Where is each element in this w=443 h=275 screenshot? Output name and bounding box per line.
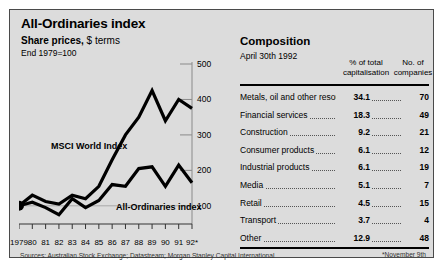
y-axis-tick-label: 500 [197,60,211,69]
row-label: Financial services [240,110,310,120]
chart-subtitle: Share prices, $ terms [21,35,120,46]
row-label: Industrial products [240,162,311,172]
x-axis-tick-label: 86 [108,238,117,247]
composition-table-body: Metals, oil and other resources34.170Fin… [240,89,429,247]
table-row: Industrial products6.119 [240,159,429,177]
table-row: Retail4.515 [240,195,429,213]
x-axis-tick-label: 92* [186,238,198,247]
row-label: Transport [240,215,278,225]
row-label: Consumer products [240,145,316,155]
row-company-count: 70 [401,92,429,102]
footer-rule [240,247,429,249]
chart-basis-note: End 1979=100 [21,48,77,58]
chart-subtitle-rest: $ terms [84,35,120,46]
x-axis-tick-label: 87 [121,238,130,247]
row-company-count: 21 [401,127,429,137]
y-axis-tick-label: 200 [197,165,211,175]
x-axis-tick-label: 85 [94,238,103,247]
table-row: Financial services18.349 [240,107,429,125]
chart-column: All-Ordinaries index Share prices, $ ter… [10,10,232,259]
x-axis-labels: 197980818283848586878889909192* [19,238,224,249]
row-percent-capitalisation: 34.1 [336,92,372,102]
table-row: Metals, oil and other resources34.170 [240,89,429,107]
row-company-count: 4 [401,215,429,225]
x-axis-tick-label: 80 [28,238,37,247]
composition-column: Composition April 30th 1992 % of total c… [234,10,435,259]
row-label: Other [240,233,263,243]
row-percent-capitalisation: 3.7 [336,215,372,225]
table-row: Media5.17 [240,177,429,195]
x-axis-tick-label: 82 [54,238,63,247]
chart-subtitle-bold: Share prices, [21,35,84,46]
row-company-count: 15 [401,198,429,208]
x-axis-tick-label: 91 [174,238,183,247]
row-company-count: 49 [401,110,429,120]
table-row: Other12.948 [240,230,429,248]
table-row: Construction9.221 [240,124,429,142]
row-label: Retail [240,198,264,208]
table-row: Consumer products6.112 [240,142,429,160]
row-company-count: 7 [401,180,429,190]
x-axis-tick-label: 83 [68,238,77,247]
figure-panel: All-Ordinaries index Share prices, $ ter… [9,9,434,258]
row-percent-capitalisation: 6.1 [336,145,372,155]
x-axis-tick-label: 1979 [10,238,28,247]
y-axis-tick-label: 400 [197,94,211,104]
footnote: *November 9th [382,251,426,258]
row-percent-capitalisation: 5.1 [336,180,372,190]
series-label-all-ordinaries: All-Ordinaries index [116,202,202,212]
x-axis-tick-label: 81 [41,238,50,247]
column-header-companies: No. of companies [392,58,434,78]
y-axis-tick-label: 300 [197,130,211,140]
table-header: % of total capitalisation No. of compani… [240,58,429,82]
x-axis-tick-label: 90 [161,238,170,247]
series-label-msci: MSCI World Index [51,141,127,151]
row-label: Media [240,180,265,190]
row-label: Construction [240,127,290,137]
row-percent-capitalisation: 18.3 [336,110,372,120]
row-company-count: 48 [401,233,429,243]
row-company-count: 19 [401,162,429,172]
row-percent-capitalisation: 4.5 [336,198,372,208]
row-percent-capitalisation: 9.2 [336,127,372,137]
x-axis-tick-label: 89 [148,238,157,247]
row-company-count: 12 [401,145,429,155]
row-percent-capitalisation: 6.1 [336,162,372,172]
x-axis-tick-label: 88 [134,238,143,247]
header-rule [240,84,429,86]
row-percent-capitalisation: 12.9 [336,233,372,243]
x-axis: 197980818283848586878889909192* [19,238,224,249]
page-title: All-Ordinaries index [21,16,145,31]
composition-title: Composition [240,35,310,47]
table-row: Transport3.74 [240,212,429,230]
column-header-pct: % of total capitalisation [335,58,397,78]
x-axis-tick-label: 84 [81,238,90,247]
